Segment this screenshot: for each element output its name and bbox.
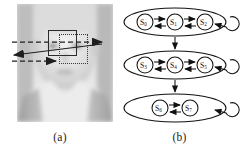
hmm-state-diagram: S0 S1 S2 S3 S4 S5 S6: [118, 0, 241, 130]
arrow-solid-diagonal: [14, 44, 102, 55]
self-loop-group-3: [215, 103, 239, 117]
caption-b: (b): [118, 131, 241, 143]
caption-a: (a): [0, 131, 120, 143]
figure-container: S0 S1 S2 S3 S4 S5 S6: [0, 0, 241, 159]
group-ellipse-3: [124, 94, 226, 122]
self-loop-group-1: [215, 17, 239, 31]
self-loop-group-2: [215, 60, 239, 74]
panel-a-arrow-overlay: [0, 0, 120, 130]
